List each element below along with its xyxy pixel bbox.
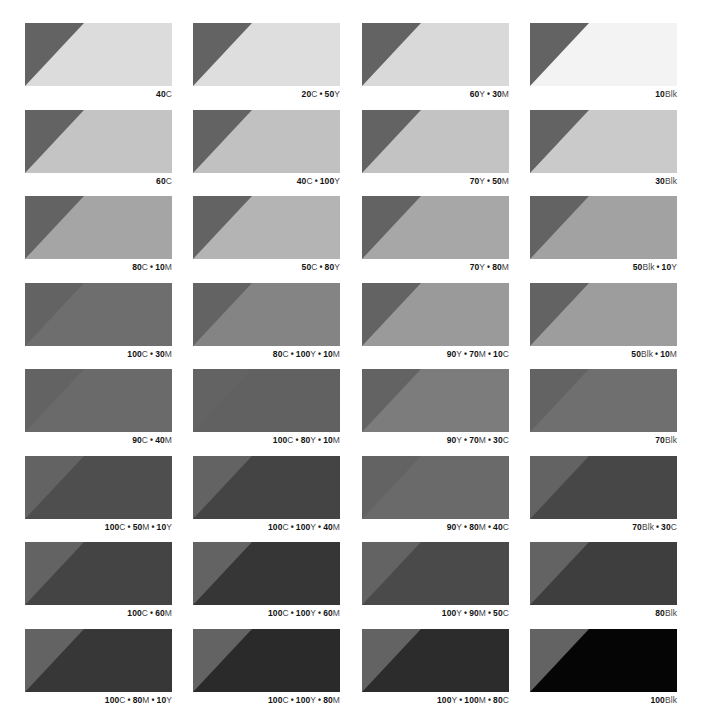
swatch-label: 50Blk•10M — [631, 349, 677, 360]
ink-percent: 10 — [155, 262, 165, 272]
color-swatch — [362, 369, 509, 432]
ink-channel: C — [282, 522, 288, 532]
color-swatch — [193, 542, 340, 605]
ink-channel: C — [503, 695, 509, 705]
ink-percent: 100 — [464, 695, 478, 705]
ink-percent: 100 — [105, 695, 119, 705]
swatch-label: 100C•80Y•10M — [273, 435, 340, 446]
ink-channel: C — [166, 176, 172, 186]
ink-percent: 100 — [296, 608, 310, 618]
ink-channel: Y — [166, 695, 172, 705]
color-swatch — [25, 196, 172, 259]
ink-channel: Blk — [642, 522, 654, 532]
ink-channel: C — [119, 522, 125, 532]
color-swatch — [530, 369, 677, 432]
swatch-cell: 90Y•70M•30C — [362, 369, 509, 447]
swatch-cell: 70Y•50M — [362, 110, 509, 188]
ink-percent: 10 — [660, 349, 670, 359]
swatch-label: 50Blk•10Y — [633, 262, 677, 273]
color-swatch — [362, 283, 509, 346]
ink-channel: Blk — [641, 349, 653, 359]
swatch-cell: 100C•100Y•80M — [193, 629, 340, 707]
swatch-label: 60C — [156, 176, 172, 187]
ink-percent: 30 — [492, 89, 502, 99]
swatch-label: 100C•100Y•40M — [268, 522, 340, 533]
color-swatch — [362, 196, 509, 259]
ink-percent: 30 — [493, 435, 503, 445]
color-swatch — [193, 456, 340, 519]
ink-channel: M — [479, 435, 486, 445]
ink-channel: M — [502, 176, 509, 186]
swatch-label: 20C•50Y — [302, 89, 340, 100]
ink-percent: 10 — [655, 89, 665, 99]
ink-channel: M — [502, 89, 509, 99]
swatch-label: 100C•100Y•80M — [268, 695, 340, 706]
ink-channel: C — [287, 435, 293, 445]
color-swatch — [25, 542, 172, 605]
ink-percent: 30 — [155, 349, 165, 359]
ink-percent: 100 — [268, 608, 282, 618]
ink-percent: 40 — [297, 176, 307, 186]
ink-channel: C — [503, 522, 509, 532]
ink-percent: 100 — [296, 695, 310, 705]
swatch-cell: 70Blk — [530, 369, 677, 447]
color-swatch — [193, 110, 340, 173]
color-swatch — [530, 456, 677, 519]
ink-channel: Blk — [665, 695, 677, 705]
color-swatch — [25, 23, 172, 86]
ink-channel: C — [282, 608, 288, 618]
ink-channel: Y — [166, 522, 172, 532]
ink-percent: 50 — [325, 89, 335, 99]
swatch-cell: 100C•100Y•40M — [193, 456, 340, 534]
ink-percent: 80 — [323, 695, 333, 705]
color-swatch — [25, 283, 172, 346]
swatch-label: 40C — [156, 89, 172, 100]
ink-channel: M — [333, 435, 340, 445]
swatch-label: 100C•100Y•60M — [268, 608, 340, 619]
swatch-label: 100Blk — [650, 695, 677, 706]
swatch-label: 10Blk — [655, 89, 677, 100]
ink-channel: M — [333, 608, 340, 618]
swatch-label: 40C•100Y — [297, 176, 340, 187]
swatch-cell: 100C•60M — [25, 542, 172, 620]
swatch-cell: 80Blk — [530, 542, 677, 620]
swatch-label: 30Blk — [655, 176, 677, 187]
ink-channel: C — [503, 608, 509, 618]
ink-percent: 80 — [655, 608, 665, 618]
color-swatch — [193, 369, 340, 432]
ink-percent: 80 — [492, 262, 502, 272]
swatch-cell: 100Y•100M•80C — [362, 629, 509, 707]
ink-percent: 100 — [437, 695, 451, 705]
color-swatch — [25, 369, 172, 432]
ink-channel: C — [503, 349, 509, 359]
color-swatch — [25, 110, 172, 173]
ink-channel: Blk — [642, 262, 654, 272]
ink-percent: 70 — [469, 349, 479, 359]
ink-channel: M — [479, 349, 486, 359]
ink-percent: 40 — [493, 522, 503, 532]
color-swatch — [530, 542, 677, 605]
color-swatch — [193, 23, 340, 86]
swatch-cell: 100C•80Y•10M — [193, 369, 340, 447]
separator-dot: • — [289, 522, 296, 532]
color-swatch — [530, 23, 677, 86]
swatch-label: 80C•10M — [132, 262, 172, 273]
separator-dot: • — [289, 349, 296, 359]
separator-dot: • — [149, 695, 156, 705]
ink-channel: Y — [334, 262, 340, 272]
ink-percent: 50 — [633, 262, 643, 272]
ink-percent: 10 — [157, 522, 167, 532]
ink-percent: 90 — [469, 608, 479, 618]
ink-percent: 50 — [133, 522, 143, 532]
ink-percent: 100 — [273, 435, 287, 445]
swatch-label: 100C•30M — [127, 349, 172, 360]
color-swatch — [25, 456, 172, 519]
ink-channel: M — [670, 349, 677, 359]
ink-percent: 50 — [302, 262, 312, 272]
color-swatch — [193, 283, 340, 346]
swatch-grid: 40C20C•50Y60Y•30M10Blk60C40C•100Y70Y•50M… — [0, 0, 702, 725]
ink-channel: M — [333, 522, 340, 532]
separator-dot: • — [289, 608, 296, 618]
ink-percent: 80 — [133, 695, 143, 705]
separator-dot: • — [149, 522, 156, 532]
